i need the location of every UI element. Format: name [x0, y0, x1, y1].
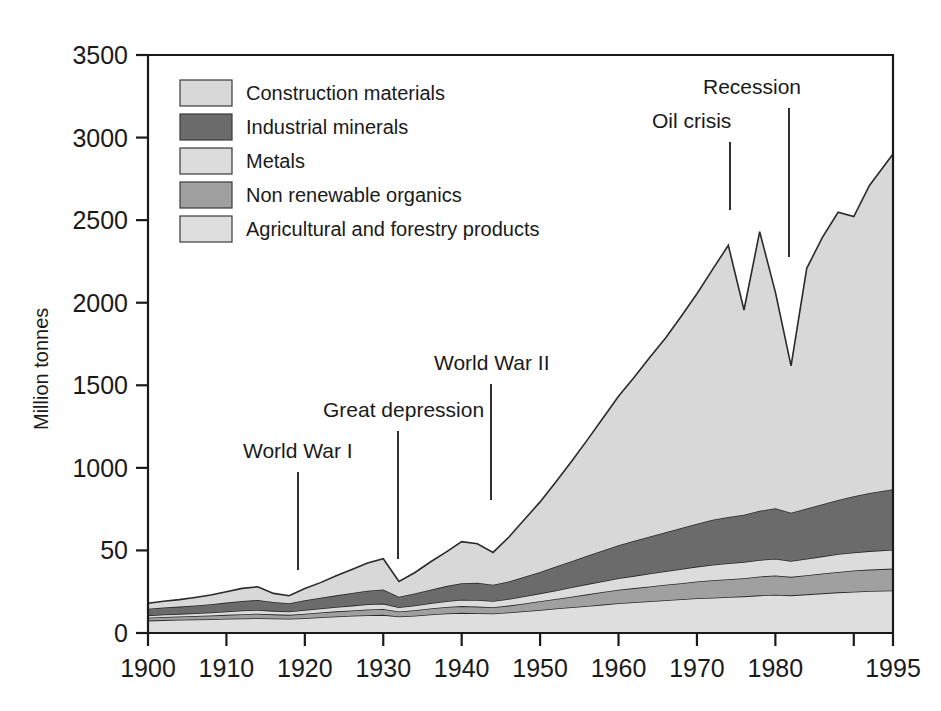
x-tick-label: 1910 — [199, 654, 255, 682]
legend-swatch-0 — [180, 80, 232, 106]
x-tick-label: 1950 — [512, 654, 568, 682]
legend-label-3: Non renewable organics — [246, 184, 462, 206]
legend-label-0: Construction materials — [246, 82, 445, 104]
legend-swatch-3 — [180, 182, 232, 208]
chart-legend: Construction materialsIndustrial mineral… — [180, 80, 539, 242]
x-axis-ticks: 1900191019201930194019501960197019801995 — [120, 633, 921, 682]
legend-label-1: Industrial minerals — [246, 116, 408, 138]
x-tick-label: 1930 — [355, 654, 411, 682]
chart-container: 050100015002000250030003500 190019101920… — [0, 0, 941, 711]
x-tick-label: 1960 — [591, 654, 647, 682]
x-tick-label: 1900 — [120, 654, 176, 682]
legend-swatch-4 — [180, 216, 232, 242]
x-tick-label: 1920 — [277, 654, 333, 682]
annotation-label-1: Great depression — [323, 398, 484, 421]
y-tick-label: 3500 — [72, 41, 128, 69]
y-tick-label: 3000 — [72, 124, 128, 152]
x-tick-label: 1940 — [434, 654, 490, 682]
x-tick-label: 1995 — [865, 654, 921, 682]
annotation-label-4: Recession — [703, 75, 801, 98]
stacked-area-chart: 050100015002000250030003500 190019101920… — [0, 0, 941, 711]
y-tick-label: 2000 — [72, 289, 128, 317]
annotation-label-3: Oil crisis — [652, 109, 731, 132]
x-tick-label: 1980 — [748, 654, 804, 682]
legend-swatch-2 — [180, 148, 232, 174]
y-axis-ticks: 050100015002000250030003500 — [72, 41, 148, 647]
y-tick-label: 1500 — [72, 371, 128, 399]
x-tick-label: 1970 — [669, 654, 725, 682]
y-tick-label: 1000 — [72, 454, 128, 482]
y-axis-title: Million tonnes — [30, 308, 52, 430]
legend-swatch-1 — [180, 114, 232, 140]
annotation-label-2: World War II — [434, 351, 550, 374]
legend-label-4: Agricultural and forestry products — [246, 218, 539, 240]
y-tick-label: 2500 — [72, 206, 128, 234]
y-tick-label: 0 — [114, 619, 128, 647]
legend-label-2: Metals — [246, 150, 305, 172]
y-tick-label: 50 — [100, 536, 128, 564]
annotation-label-0: World War I — [243, 439, 353, 462]
